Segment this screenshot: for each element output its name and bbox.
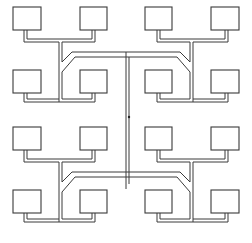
quadrant-top-right: [126, 7, 239, 102]
trace-line: [27, 150, 92, 159]
trace-line: [24, 213, 59, 222]
trace-line: [160, 213, 190, 219]
trace-line: [24, 30, 59, 42]
trace-line: [160, 30, 225, 39]
quadrant-bottom-right: [126, 127, 239, 222]
trace-line: [193, 213, 225, 219]
node-box: [211, 70, 239, 93]
trace-line: [24, 150, 59, 162]
trace-line: [27, 93, 59, 99]
trace-line: [62, 93, 95, 102]
node-box: [13, 127, 41, 150]
h-tree-diagram: [0, 0, 252, 243]
quadrant-bottom-left: [13, 127, 126, 222]
trace-line: [62, 30, 95, 42]
trace-line: [193, 93, 228, 102]
trace-line: [62, 162, 126, 182]
trace-line: [157, 213, 190, 222]
trace-line: [193, 30, 228, 42]
center-marker-dot: [128, 116, 130, 118]
node-box: [145, 7, 172, 30]
trace-line: [24, 93, 59, 102]
trace-line: [157, 93, 190, 102]
node-box: [80, 127, 107, 150]
quadrant-top-left: [13, 7, 126, 102]
node-box: [13, 70, 41, 93]
node-box: [80, 7, 107, 30]
node-box: [80, 190, 107, 213]
node-box: [13, 7, 41, 30]
trace-line: [62, 93, 92, 99]
trace-line: [193, 150, 228, 162]
node-box: [211, 127, 239, 150]
trace-line: [193, 93, 225, 99]
node-box: [145, 190, 172, 213]
node-box: [80, 70, 107, 93]
trace-line: [62, 213, 92, 219]
trace-line: [160, 150, 225, 159]
trace-line: [193, 213, 228, 222]
node-box: [13, 190, 41, 213]
trace-line: [157, 30, 190, 42]
node-box: [211, 7, 239, 30]
trace-line: [27, 213, 59, 219]
node-box: [211, 190, 239, 213]
trace-line: [62, 150, 95, 162]
trace-line: [27, 30, 92, 39]
trace-line: [126, 162, 190, 182]
trace-line: [62, 213, 95, 222]
trace-line: [160, 93, 190, 99]
node-box: [145, 127, 172, 150]
trace-line: [62, 42, 126, 62]
node-box: [145, 70, 172, 93]
trace-line: [126, 42, 190, 62]
trace-line: [157, 150, 190, 162]
